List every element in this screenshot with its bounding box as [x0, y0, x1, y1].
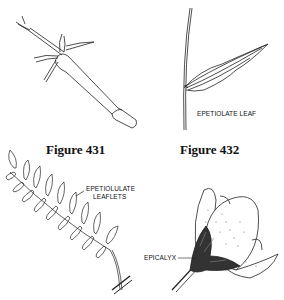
epicalyx-label: EPICALYX [144, 254, 176, 262]
figure-page: Figure 431 Figure 432 EPETIOLATE LEAF EP… [0, 0, 284, 300]
leaflets-label-line2: LEAFLETS [93, 193, 126, 201]
epetiolate-leaf-label: EPETIOLATE LEAF [197, 110, 256, 118]
epetiolulate-label-line1: EPETIOLULATE [86, 185, 135, 193]
figure-432-caption: Figure 432 [180, 142, 239, 158]
figure-431-caption: Figure 431 [46, 142, 105, 158]
figure-431-illustration [0, 0, 284, 300]
